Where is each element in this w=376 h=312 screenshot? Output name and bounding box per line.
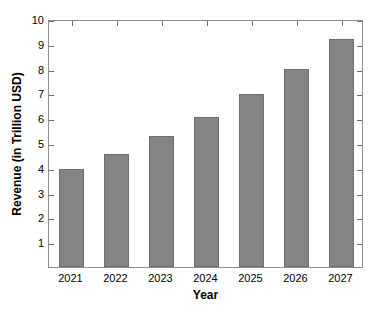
bar (329, 39, 354, 267)
bars-layer (49, 21, 362, 267)
bar (149, 136, 174, 267)
bar (59, 169, 84, 267)
bar-chart-figure: 12345678910 2021202220232024202520262027… (0, 0, 376, 312)
y-axis-title: Revenue (in Trillion USD) (10, 20, 26, 268)
x-axis-title: Year (48, 288, 363, 302)
bar (104, 154, 129, 267)
bar (239, 94, 264, 267)
bar (194, 117, 219, 267)
x-axis-tick-labels: 2021202220232024202520262027 (48, 272, 363, 288)
bar (284, 69, 309, 267)
x-tick-label: 2027 (311, 272, 371, 285)
plot-area (48, 20, 363, 268)
